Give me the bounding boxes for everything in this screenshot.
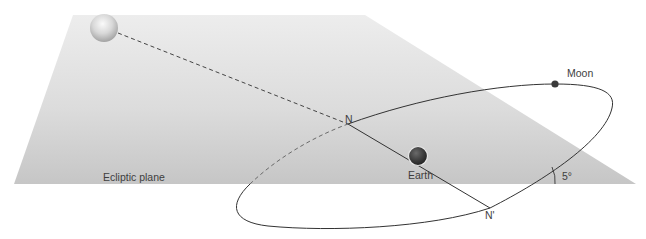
- inclination-label: 5°: [562, 171, 572, 182]
- ecliptic-plane-label: Ecliptic plane: [103, 172, 165, 183]
- moon-label: Moon: [567, 68, 593, 79]
- sun-sphere: [90, 14, 118, 42]
- earth-label: Earth: [408, 170, 433, 181]
- node-n-label: N: [345, 114, 353, 125]
- node-n-prime-label: N': [485, 210, 495, 221]
- diagram-stage: Ecliptic plane Moon N Earth N' 5°: [0, 0, 646, 239]
- earth-sphere: [409, 147, 428, 166]
- diagram-canvas: [0, 0, 646, 239]
- moon-dot: [551, 80, 558, 87]
